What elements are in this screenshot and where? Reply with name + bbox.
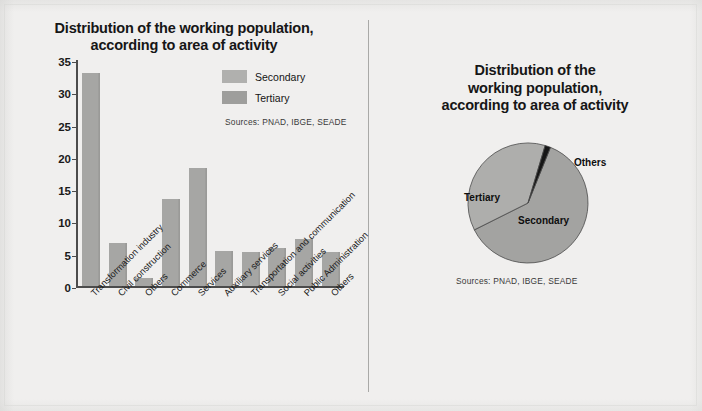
pie-chart-sources: Sources: PNAD, IBGE, SEADE [456, 276, 578, 286]
pie-graphic [467, 142, 589, 264]
pie-chart-title: Distribution of the working population, … [404, 62, 666, 115]
bar-chart-plot-area: 05101520253035 [76, 60, 344, 288]
pie-chart-panel: Distribution of the working population, … [368, 0, 702, 411]
bar-slot [184, 60, 211, 286]
pie-svg [467, 142, 589, 264]
y-axis-tick-label: 25 [58, 121, 71, 133]
pie-label-others: Others [574, 157, 606, 168]
bar [82, 73, 100, 286]
y-axis-tick-label: 5 [65, 250, 71, 262]
y-axis-tick-mark [72, 127, 76, 128]
bar-chart-title: Distribution of the working population, … [14, 20, 354, 54]
bar-title-line-1: Distribution of the working population, [55, 20, 314, 36]
bar-chart-panel: Distribution of the working population, … [0, 0, 368, 411]
pie-label-tertiary: Tertiary [464, 192, 500, 203]
figure-canvas: Distribution of the working population, … [0, 0, 702, 411]
pie-title-line-1: Distribution of the [474, 62, 595, 78]
bar-slot [211, 60, 238, 286]
bar-title-line-2: according to area of activity [91, 37, 278, 53]
y-axis-tick-mark [72, 191, 76, 192]
x-axis-label-group: Transformation industryCivil constructio… [76, 289, 366, 409]
pie-label-secondary: Secondary [518, 215, 569, 226]
y-axis-tick-label: 0 [65, 282, 71, 294]
y-axis-tick-label: 10 [58, 217, 71, 229]
y-axis-tick-mark [72, 62, 76, 63]
y-axis-tick-mark [72, 94, 76, 95]
y-axis-tick-label: 20 [58, 153, 71, 165]
pie-title-line-2: working population, [468, 80, 602, 96]
y-axis-tick-mark [72, 223, 76, 224]
bar-series-group [78, 60, 344, 286]
y-axis-tick-mark [72, 256, 76, 257]
pie-title-line-3: according to area of activity [442, 97, 629, 113]
bar-slot [78, 60, 105, 286]
y-axis-tick-label: 30 [58, 88, 71, 100]
y-axis-tick-label: 15 [58, 185, 71, 197]
y-axis-tick-mark [72, 159, 76, 160]
y-axis-tick-label: 35 [58, 56, 71, 68]
